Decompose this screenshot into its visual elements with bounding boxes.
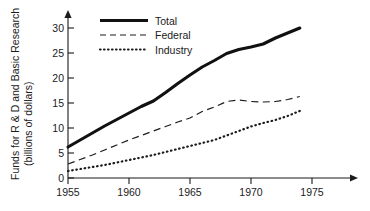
y-axis-title-line2: (billions of dollars) (22, 81, 34, 166)
legend-label-federal: Federal (155, 29, 191, 41)
x-tick-label-1960: 1960 (117, 186, 141, 198)
x-axis-ticks (68, 178, 312, 184)
y-tick-label-25: 25 (52, 47, 64, 59)
chart-legend: Total Federal Industry (100, 15, 193, 56)
y-tick-label-30: 30 (52, 22, 64, 34)
x-axis-arrowhead (350, 174, 358, 181)
y-axis-arrowhead (64, 10, 71, 18)
x-tick-label-1965: 1965 (178, 186, 202, 198)
y-tick-label-5: 5 (58, 147, 64, 159)
y-axis-ticks (68, 28, 74, 178)
series-line-federal (68, 97, 300, 165)
legend-label-industry: Industry (155, 44, 193, 56)
y-tick-label-15: 15 (52, 97, 64, 109)
y-axis-title-line1: Funds for R & D and Basic Research (9, 8, 21, 180)
chart-container: Funds for R & D and Basic Research (bill… (0, 0, 370, 211)
line-chart: Funds for R & D and Basic Research (bill… (0, 0, 370, 211)
x-tick-label-1970: 1970 (239, 186, 263, 198)
y-tick-label-20: 20 (52, 72, 64, 84)
x-tick-label-1955: 1955 (56, 186, 80, 198)
x-tick-label-1975: 1975 (300, 186, 324, 198)
y-tick-label-10: 10 (52, 122, 64, 134)
legend-label-total: Total (155, 15, 177, 27)
series-line-industry (68, 111, 300, 171)
y-tick-label-0: 0 (58, 172, 64, 184)
